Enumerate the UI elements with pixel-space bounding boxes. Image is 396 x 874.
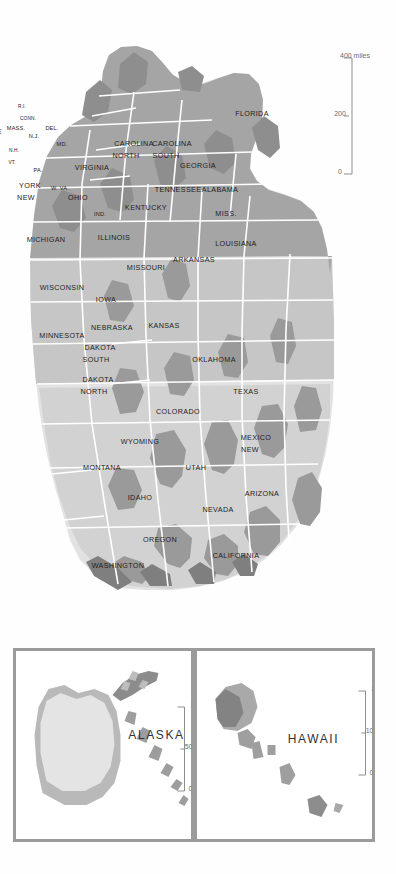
inset-alaska: ALASKA 1000 miles 500 0 xyxy=(13,648,194,842)
state-label-new-mexico-2: MEXICO xyxy=(241,433,272,442)
alaska-scale-tick-0: 0 xyxy=(188,785,191,792)
state-label-new-jersey: N.J. xyxy=(29,133,40,139)
state-label-nebraska: NEBRASKA xyxy=(91,323,133,332)
state-label-south-carolina-1: SOUTH xyxy=(153,151,180,160)
state-label-washington: WASHINGTON xyxy=(92,561,145,570)
state-label-iowa: IOWA xyxy=(96,295,116,304)
inset-alaska-rotated-canvas: ALASKA 1000 miles 500 0 xyxy=(16,651,191,839)
alaska-interior-light xyxy=(40,693,114,791)
scale-tick-400-miles: 400 miles xyxy=(340,52,370,59)
state-label-tennessee: TENNESSEE xyxy=(155,185,202,194)
contiguous-us-map: WASHINGTON OREGON CALIFORNIA NEVADA IDAH… xyxy=(0,0,396,620)
state-label-north-carolina-1: NORTH xyxy=(112,151,139,160)
state-label-north-dakota-2: DAKOTA xyxy=(82,375,113,384)
alaska-map: ALASKA 1000 miles 500 0 xyxy=(16,651,191,839)
state-label-georgia: GEORGIA xyxy=(180,161,216,170)
state-label-montana: MONTANA xyxy=(83,463,121,472)
inset-panel: ALASKA 1000 miles 500 0 xyxy=(13,648,375,842)
state-label-south-dakota-2: DAKOTA xyxy=(84,343,115,352)
state-label-michigan: MICHIGAN xyxy=(27,235,66,244)
state-label-virginia: VIRGINIA xyxy=(75,163,109,172)
state-label-oregon: OREGON xyxy=(143,535,177,544)
state-label-south-dakota-1: SOUTH xyxy=(83,355,110,364)
state-label-kentucky: KENTUCKY xyxy=(125,203,167,212)
state-label-new-york-2: YORK xyxy=(19,181,41,190)
alaska-scale-tick-1000-miles: 1000 miles xyxy=(190,701,191,708)
state-label-oklahoma: OKLAHOMA xyxy=(192,355,236,364)
state-label-rhode-island: R.I. xyxy=(18,104,26,109)
state-label-louisiana: LOUISIANA xyxy=(215,239,257,248)
island-kauai xyxy=(307,795,327,817)
state-label-indiana: IND. xyxy=(94,211,106,217)
state-label-north-dakota-1: NORTH xyxy=(80,387,107,396)
inset-hawaii: HAWAII 200 miles 100 0 xyxy=(194,648,375,842)
state-label-north-carolina-2: CAROLINA xyxy=(114,139,154,148)
state-label-illinois: ILLINOIS xyxy=(98,233,130,242)
island-oahu xyxy=(279,763,295,785)
state-label-utah: UTAH xyxy=(186,463,206,472)
state-label-florida: FLORIDA xyxy=(235,109,269,118)
state-label-minnesota: MINNESOTA xyxy=(39,331,84,340)
inset-alaska-title: ALASKA xyxy=(128,728,184,742)
state-label-delaware: DEL. xyxy=(45,125,58,131)
state-label-new-hampshire: N.H. xyxy=(9,148,19,153)
island-niihau xyxy=(333,803,343,813)
state-label-alabama: ALABAMA xyxy=(202,185,238,194)
hawaii-scale-tick-0: 0 xyxy=(369,769,372,776)
scale-tick-0: 0 xyxy=(338,168,342,175)
hawaii-scale-tick-100: 100 xyxy=(365,727,372,734)
land-relief-layer xyxy=(30,46,334,590)
state-label-missouri: MISSOURI xyxy=(127,263,165,272)
state-label-maine: MAINE xyxy=(0,127,2,136)
state-label-kansas: KANSAS xyxy=(148,321,179,330)
map-page: WASHINGTON OREGON CALIFORNIA NEVADA IDAH… xyxy=(0,0,396,874)
hawaii-scale-tick-200-miles: 200 miles xyxy=(371,685,372,692)
state-label-west-virginia: W. VA. xyxy=(51,185,69,191)
state-label-california: CALIFORNIA xyxy=(213,551,260,560)
state-label-mississippi: MISS. xyxy=(215,209,236,218)
aleutian-islands xyxy=(124,711,188,806)
main-map-container: WASHINGTON OREGON CALIFORNIA NEVADA IDAH… xyxy=(0,0,396,620)
state-label-arizona: ARIZONA xyxy=(245,489,279,498)
state-label-massachusetts: MASS. xyxy=(7,125,26,131)
alaska-scale-tick-500: 500 xyxy=(184,743,191,750)
inset-hawaii-rotated-canvas: HAWAII 200 miles 100 0 xyxy=(197,651,372,839)
alaska-scale-bar: 1000 miles 500 0 xyxy=(177,701,191,792)
scale-tick-200: 200 xyxy=(334,110,346,117)
state-label-pennsylvania: PA. xyxy=(33,167,42,173)
island-lanai xyxy=(267,745,275,755)
state-label-arkansas: ARKANSAS xyxy=(173,255,215,264)
main-scale-bar: 0 200 400 miles xyxy=(334,52,370,175)
island-molokai xyxy=(251,741,263,759)
state-label-wisconsin: WISCONSIN xyxy=(40,283,85,292)
hawaii-map: HAWAII 200 miles 100 0 xyxy=(197,651,372,839)
state-label-vermont: VT. xyxy=(8,160,15,165)
state-label-new-mexico-1: NEW xyxy=(241,445,259,454)
hawaii-scale-bar: 200 miles 100 0 xyxy=(358,685,372,776)
main-map-rotated-canvas: WASHINGTON OREGON CALIFORNIA NEVADA IDAH… xyxy=(0,0,396,620)
state-label-maryland: MD. xyxy=(57,141,68,147)
state-label-wyoming: WYOMING xyxy=(121,437,159,446)
state-label-connecticut: CONN. xyxy=(20,116,36,121)
state-label-ohio: OHIO xyxy=(68,193,88,202)
state-label-south-carolina-2: CAROLINA xyxy=(152,139,192,148)
state-label-texas: TEXAS xyxy=(233,387,258,396)
state-label-colorado: COLORADO xyxy=(156,407,200,416)
state-label-nevada: NEVADA xyxy=(202,505,233,514)
state-label-new-york-1: NEW xyxy=(17,193,35,202)
inset-hawaii-title: HAWAII xyxy=(287,732,338,746)
state-label-idaho: IDAHO xyxy=(128,493,153,502)
